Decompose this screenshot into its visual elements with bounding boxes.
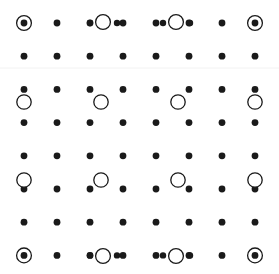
marker-core-dot bbox=[252, 20, 259, 27]
grid-dot bbox=[120, 219, 127, 226]
marker-core-dot bbox=[21, 20, 28, 27]
canvas-background bbox=[0, 0, 279, 274]
grid-dot bbox=[120, 20, 127, 27]
grid-dot bbox=[87, 186, 94, 193]
grid-dot bbox=[252, 53, 259, 60]
grid-dot bbox=[120, 86, 127, 93]
grid-dot bbox=[153, 86, 160, 93]
grid-dot bbox=[153, 53, 160, 60]
satellite-dot bbox=[160, 20, 166, 26]
open-circle-marker[interactable] bbox=[96, 249, 111, 264]
open-circle-marker[interactable] bbox=[17, 173, 31, 187]
grid-dot bbox=[120, 53, 127, 60]
dot-grid-svg bbox=[0, 0, 279, 274]
grid-dot bbox=[186, 119, 193, 126]
satellite-dot bbox=[114, 20, 120, 26]
grid-dot bbox=[120, 152, 127, 159]
grid-dot bbox=[54, 219, 61, 226]
grid-dot bbox=[219, 252, 226, 259]
open-circle-marker[interactable] bbox=[171, 173, 185, 187]
grid-dot bbox=[153, 219, 160, 226]
grid-dot bbox=[21, 219, 28, 226]
grid-dot bbox=[87, 152, 94, 159]
grid-dot bbox=[87, 219, 94, 226]
grid-dot bbox=[186, 53, 193, 60]
grid-dot bbox=[54, 186, 61, 193]
ringed-dot-marker[interactable] bbox=[17, 16, 32, 31]
ringed-dot-marker[interactable] bbox=[17, 248, 32, 263]
grid-dot bbox=[186, 152, 193, 159]
open-circle-marker[interactable] bbox=[96, 15, 111, 30]
marker-core-dot bbox=[252, 252, 259, 259]
open-circle-marker[interactable] bbox=[94, 173, 108, 187]
grid-dot bbox=[252, 219, 259, 226]
satellite-dot bbox=[87, 20, 93, 26]
satellite-dot bbox=[114, 252, 120, 258]
satellite-dot bbox=[187, 252, 193, 258]
satellite-dot bbox=[187, 20, 193, 26]
grid-dot bbox=[219, 20, 226, 27]
open-circle-marker[interactable] bbox=[248, 95, 262, 109]
open-circle-marker[interactable] bbox=[17, 95, 31, 109]
grid-dot bbox=[186, 186, 193, 193]
grid-dot bbox=[153, 119, 160, 126]
grid-dot bbox=[252, 86, 259, 93]
grid-dot bbox=[54, 53, 61, 60]
grid-dot bbox=[186, 86, 193, 93]
ringed-dot-marker[interactable] bbox=[248, 248, 263, 263]
grid-dot bbox=[21, 53, 28, 60]
satellite-dot bbox=[87, 252, 93, 258]
grid-dot bbox=[87, 53, 94, 60]
grid-dot bbox=[219, 186, 226, 193]
grid-dot bbox=[54, 119, 61, 126]
ringed-dot-marker[interactable] bbox=[248, 16, 263, 31]
grid-dot bbox=[153, 252, 160, 259]
grid-dot bbox=[219, 152, 226, 159]
grid-dot bbox=[87, 86, 94, 93]
grid-dot bbox=[219, 53, 226, 60]
grid-dot bbox=[21, 86, 28, 93]
grid-dot bbox=[219, 86, 226, 93]
grid-dot bbox=[153, 186, 160, 193]
grid-dot bbox=[54, 252, 61, 259]
grid-dot bbox=[54, 86, 61, 93]
open-circle-marker[interactable] bbox=[169, 249, 184, 264]
satellite-dot bbox=[160, 252, 166, 258]
grid-dot bbox=[252, 119, 259, 126]
grid-dot bbox=[153, 20, 160, 27]
grid-dot bbox=[120, 252, 127, 259]
open-circle-marker[interactable] bbox=[171, 95, 185, 109]
grid-dot bbox=[54, 152, 61, 159]
open-circle-marker[interactable] bbox=[169, 15, 184, 30]
grid-dot bbox=[219, 119, 226, 126]
grid-dot bbox=[54, 20, 61, 27]
grid-dot bbox=[120, 119, 127, 126]
open-circle-marker[interactable] bbox=[248, 173, 262, 187]
grid-dot bbox=[87, 119, 94, 126]
grid-dot bbox=[219, 219, 226, 226]
grid-dot bbox=[120, 186, 127, 193]
marker-core-dot bbox=[21, 252, 28, 259]
open-circle-marker[interactable] bbox=[94, 95, 108, 109]
grid-dot bbox=[21, 119, 28, 126]
grid-dot bbox=[252, 152, 259, 159]
grid-dot bbox=[21, 152, 28, 159]
grid-dot bbox=[186, 219, 193, 226]
grid-dot bbox=[153, 152, 160, 159]
dot-grid-canvas bbox=[0, 0, 279, 274]
